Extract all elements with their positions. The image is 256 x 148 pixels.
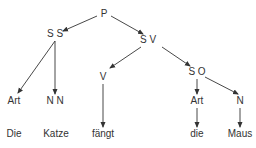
word-w2: Katze xyxy=(43,128,69,139)
edge-ss-artl-arrow-icon xyxy=(18,41,55,93)
word-w4: die xyxy=(190,128,204,139)
node-artl: Art xyxy=(8,95,21,106)
edge-sv-v-arrow-icon xyxy=(110,47,141,68)
syntax-tree-diagram: PS SS VArtN NVS OArtN DieKatzefängtdieMa… xyxy=(0,0,256,148)
edge-p-sv-arrow-icon xyxy=(111,16,143,34)
sentence-words: DieKatzefängtdieMaus xyxy=(6,128,252,139)
node-nn: N N xyxy=(46,95,63,106)
word-w5: Maus xyxy=(228,128,252,139)
word-w3: fängt xyxy=(92,128,114,139)
node-so: S O xyxy=(188,66,205,77)
node-v: V xyxy=(100,71,107,82)
node-sv: S V xyxy=(140,34,156,45)
node-artr: Art xyxy=(191,95,204,106)
edge-so-n-arrow-icon xyxy=(205,77,238,94)
word-w1: Die xyxy=(6,128,21,139)
node-ss: S S xyxy=(47,28,63,39)
node-p: P xyxy=(101,8,108,19)
edge-sv-so-arrow-icon xyxy=(162,47,190,66)
node-n: N xyxy=(236,95,243,106)
edge-p-ss-arrow-icon xyxy=(63,16,97,31)
